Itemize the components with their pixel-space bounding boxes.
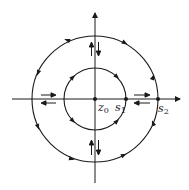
label-s2-sub: 2 (164, 107, 169, 116)
arrow-down-icon (96, 150, 100, 155)
label-s2: s2 (158, 103, 169, 116)
point-z0 (93, 97, 97, 101)
arrow-up-icon (89, 42, 93, 47)
label-z0: z0 (98, 102, 109, 115)
label-s1: s1 (115, 102, 126, 115)
arrow-right-icon (145, 93, 150, 97)
point-s2 (156, 97, 160, 101)
point-s1 (124, 97, 128, 101)
arrow-icon (120, 152, 127, 159)
arrow-icon (35, 69, 41, 76)
phase-portrait-diagram (0, 0, 189, 190)
label-s1-sub: 1 (121, 106, 126, 115)
arrow-left-icon (134, 101, 139, 105)
arrow-right-icon (51, 93, 56, 97)
arrow-up-icon (89, 140, 93, 145)
arrow-left-icon (41, 101, 46, 105)
arrow-down-icon (96, 51, 100, 56)
label-z0-sub: 0 (104, 106, 109, 115)
arrow-icon (150, 119, 156, 126)
